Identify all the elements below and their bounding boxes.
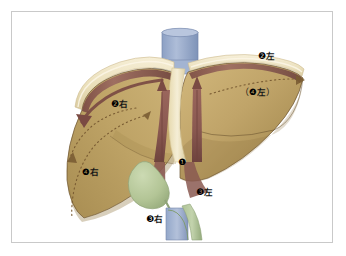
annotation-seg3-left: ❸左 <box>196 188 213 197</box>
annotation-number: ❶ <box>178 157 186 167</box>
annotation-number: ❹ <box>249 87 257 97</box>
annotation-open-paren: （ <box>240 87 249 97</box>
annotation-number: ❹ <box>82 167 90 177</box>
annotation-seg2-right: ❷右 <box>111 100 128 109</box>
left-hepatic-duct-trunk <box>192 76 202 162</box>
annotation-side: 左 <box>257 87 266 97</box>
annotation-side: 右 <box>154 214 163 224</box>
annotation-seg2-left: ❷左 <box>258 52 275 61</box>
annotation-number: ❸ <box>196 187 204 197</box>
annotation-number: ❸ <box>146 214 154 224</box>
screenshot-root: ❷左 ❷右 （❹左） ❹右 ❶ ❸左 ❸右 <box>0 0 346 256</box>
annotation-seg3-right: ❸右 <box>146 215 163 224</box>
annotation-side: 左 <box>204 187 213 197</box>
annotation-side: 左 <box>266 51 275 61</box>
annotation-side: 右 <box>119 99 128 109</box>
liver-anatomy-illustration <box>12 12 334 244</box>
annotation-number: ❷ <box>258 51 266 61</box>
annotation-seg1: ❶ <box>178 158 186 167</box>
annotation-number: ❷ <box>111 99 119 109</box>
figure-frame: ❷左 ❷右 （❹左） ❹右 ❶ ❸左 ❸右 <box>11 11 333 243</box>
annotation-side: 右 <box>90 167 99 177</box>
annotation-seg4-left: （❹左） <box>240 88 275 97</box>
annotation-seg4-right: ❹右 <box>82 168 99 177</box>
annotation-close-paren: ） <box>266 87 275 97</box>
